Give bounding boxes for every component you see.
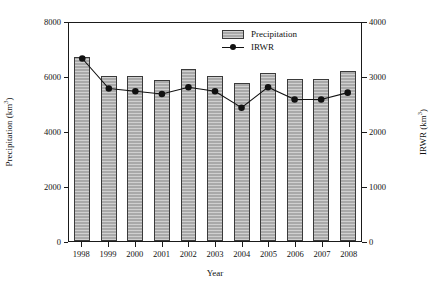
x-axis-tick-label: 2004 <box>233 249 250 259</box>
bar-slot <box>281 23 308 241</box>
x-axis-tick-label: 1998 <box>73 249 90 259</box>
bar-series-precipitation <box>69 23 361 241</box>
legend-label-precipitation: Precipitation <box>251 30 297 39</box>
y-axis-right-title-tail: ) <box>418 109 428 112</box>
legend-item-irwr: IRWR <box>222 41 297 54</box>
y-axis-right-tick-mark <box>362 132 367 133</box>
x-axis-tick-mark <box>322 242 323 247</box>
x-axis-tick-mark <box>349 242 350 247</box>
x-axis-tick-label: 2007 <box>313 249 330 259</box>
y-axis-right-tick-mark <box>362 187 367 188</box>
y-axis-right-tick-label: 4000 <box>369 17 386 27</box>
legend-swatch-icon <box>222 30 244 39</box>
y-axis-left-tick-label: 6000 <box>0 72 61 82</box>
y-axis-right-tick-mark <box>362 77 367 78</box>
x-axis-tick-label: 2008 <box>340 249 357 259</box>
bar-slot <box>122 23 149 241</box>
x-axis-tick-label: 1999 <box>100 249 117 259</box>
bar-slot <box>175 23 202 241</box>
x-axis-tick-mark <box>162 242 163 247</box>
y-axis-right-tick-label: 2000 <box>369 127 386 137</box>
x-axis-tick-mark <box>242 242 243 247</box>
chart-figure: 02000400060008000 01000200030004000 1998… <box>0 0 433 288</box>
bar <box>313 79 329 241</box>
x-axis-tick-label: 2001 <box>153 249 170 259</box>
legend-line-marker-icon <box>222 43 244 52</box>
y-axis-left-tick-label: 8000 <box>0 17 61 27</box>
x-axis-tick-mark <box>135 242 136 247</box>
x-axis-tick-label: 2000 <box>126 249 143 259</box>
legend-item-precipitation: Precipitation <box>222 28 297 41</box>
y-axis-right-tick-mark <box>362 242 367 243</box>
y-axis-left-tick-mark <box>64 242 69 243</box>
bar-slot <box>96 23 123 241</box>
bar-slot <box>202 23 229 241</box>
x-axis-tick-mark <box>268 242 269 247</box>
bar <box>101 76 117 241</box>
x-axis-tick-label: 2002 <box>180 249 197 259</box>
y-axis-right-tick-label: 3000 <box>369 72 386 82</box>
bar <box>340 71 356 242</box>
y-axis-right-tick-label: 1000 <box>369 182 386 192</box>
y-axis-left-title-text: Precipitation (km <box>4 104 14 167</box>
bar-slot <box>255 23 282 241</box>
bar <box>234 83 250 241</box>
y-axis-right-title: IRWR (km3) <box>416 109 428 155</box>
x-axis-tick-label: 2005 <box>260 249 277 259</box>
bar-slot <box>149 23 176 241</box>
x-axis-tick-mark <box>108 242 109 247</box>
bar <box>260 73 276 241</box>
y-axis-right-tick-mark <box>362 22 367 23</box>
y-axis-right-title-sup: 3 <box>416 112 423 115</box>
bar <box>181 69 197 241</box>
chart-legend: Precipitation IRWR <box>222 28 297 54</box>
bar <box>287 79 303 241</box>
legend-label-irwr: IRWR <box>251 43 274 52</box>
x-axis-tick-mark <box>81 242 82 247</box>
y-axis-left-title-sup: 3 <box>2 101 9 104</box>
y-axis-left-tick-label: 2000 <box>0 182 61 192</box>
plot-area <box>68 22 362 242</box>
x-axis-tick-mark <box>188 242 189 247</box>
y-axis-right-tick-label: 0 <box>369 237 373 247</box>
bar-slot <box>69 23 96 241</box>
x-axis-tick-label: 2003 <box>207 249 224 259</box>
bar-slot <box>308 23 335 241</box>
bar <box>154 80 170 241</box>
x-axis-title: Year <box>207 268 224 278</box>
bar <box>207 76 223 241</box>
bar-slot <box>334 23 361 241</box>
x-axis-tick-mark <box>215 242 216 247</box>
bar-slot <box>228 23 255 241</box>
y-axis-left-title: Precipitation (km3) <box>2 98 14 167</box>
bar <box>74 57 90 241</box>
x-axis-tick-mark <box>295 242 296 247</box>
y-axis-left-title-tail: ) <box>4 98 14 101</box>
x-axis-tick-label: 2006 <box>287 249 304 259</box>
y-axis-left-tick-label: 0 <box>0 237 61 247</box>
bar <box>127 76 143 241</box>
y-axis-right-title-text: IRWR (km <box>418 115 428 155</box>
